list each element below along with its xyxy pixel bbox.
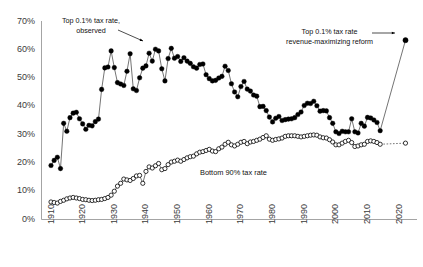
data-point-top01	[311, 99, 316, 104]
data-point-top01	[137, 75, 142, 80]
data-point-bottom90	[109, 193, 113, 197]
data-point-top01	[147, 51, 152, 56]
data-point-top01	[267, 115, 272, 120]
top-series-annotation: Top 0.1% tax rate, observed	[62, 16, 120, 35]
y-axis-tick-label: 50%	[3, 72, 35, 82]
data-point-top01	[327, 115, 332, 120]
data-point-top01	[356, 131, 361, 136]
data-point-top01	[248, 89, 253, 94]
data-point-bottom90	[378, 142, 382, 146]
bottom-series-annotation: Bottom 90% tax rate	[200, 168, 267, 177]
y-axis-tick-label: 60%	[3, 44, 35, 54]
data-point-top01	[362, 124, 367, 129]
data-point-top01	[375, 120, 380, 125]
data-point-bottom90	[157, 161, 161, 165]
data-point-top01	[330, 121, 335, 126]
data-point-top01	[65, 129, 70, 134]
data-point-top01	[378, 128, 383, 133]
data-point-top01	[134, 88, 139, 93]
y-axis-tick-label: 20%	[3, 157, 35, 167]
x-axis-tick-label: 1950	[172, 203, 182, 223]
data-point-top01	[270, 120, 275, 125]
data-point-top01	[58, 166, 63, 171]
data-point-top01	[232, 90, 237, 95]
data-point-top01	[226, 68, 231, 73]
data-point-bottom90	[403, 141, 407, 145]
data-point-top01	[121, 83, 126, 88]
data-point-top01	[90, 124, 95, 129]
data-point-top01	[169, 46, 174, 51]
data-point-top01	[55, 155, 60, 160]
data-point-bottom90	[119, 181, 123, 185]
annotation-arrow	[372, 32, 395, 35]
data-point-top01	[128, 51, 133, 56]
data-point-top01	[254, 94, 259, 99]
x-axis-tick-label: 2010	[362, 203, 372, 223]
data-point-top01	[144, 64, 149, 69]
data-point-top01	[68, 115, 73, 120]
data-point-top01	[175, 54, 180, 59]
data-point-bottom90	[144, 169, 148, 173]
data-point-top01	[349, 117, 354, 122]
data-point-bottom90	[138, 173, 142, 177]
x-axis-tick-label: 1940	[140, 203, 150, 223]
data-point-top01	[74, 110, 79, 115]
data-point-top01	[156, 49, 161, 54]
chart-figure: 0%10%20%30%40%50%60%70%19101920193019401…	[0, 0, 423, 267]
data-point-top01	[229, 81, 234, 86]
x-axis-tick-label: 1910	[46, 203, 56, 223]
data-point-top01	[150, 59, 155, 64]
data-point-top01	[99, 87, 104, 92]
data-point-top01	[201, 62, 206, 67]
data-point-bottom90	[264, 134, 268, 138]
x-axis-tick-label: 1930	[109, 203, 119, 223]
data-point-top01	[80, 122, 85, 127]
data-point-top01	[109, 49, 114, 54]
data-point-top01	[159, 66, 164, 71]
y-axis-tick-label: 10%	[3, 185, 35, 195]
data-point-top01	[277, 114, 282, 119]
data-point-top01	[315, 103, 320, 108]
data-point-top01	[163, 79, 168, 84]
y-axis-tick-label: 40%	[3, 100, 35, 110]
data-point-top01	[96, 117, 101, 122]
data-point-top01	[84, 127, 89, 132]
data-point-top01	[166, 56, 171, 61]
data-point-top01	[346, 130, 351, 135]
data-point-top01	[242, 79, 247, 84]
data-point-top01	[235, 94, 240, 99]
x-axis-tick-label: 1970	[235, 203, 245, 223]
y-axis-tick-label: 70%	[3, 16, 35, 26]
annotation-arrow	[118, 30, 143, 41]
data-point-top01	[112, 65, 117, 70]
data-point-top01	[77, 117, 82, 122]
data-point-top01	[299, 110, 304, 115]
data-point-reform	[403, 38, 408, 43]
reform-annotation: Top 0.1% tax rate revenue-maximizing ref…	[286, 27, 373, 46]
data-point-top01	[223, 64, 228, 69]
data-point-top01	[178, 59, 183, 64]
x-axis-tick-label: 1960	[204, 203, 214, 223]
data-point-top01	[239, 84, 244, 89]
data-point-bottom90	[112, 189, 116, 193]
data-point-top01	[49, 163, 54, 168]
data-point-top01	[106, 65, 111, 70]
data-point-top01	[194, 66, 199, 71]
data-point-bottom90	[163, 166, 167, 170]
data-point-top01	[125, 69, 130, 74]
x-axis-tick-label: 1980	[267, 203, 277, 223]
x-axis-tick-label: 2020	[394, 203, 404, 223]
data-point-top01	[61, 121, 66, 126]
data-point-bottom90	[141, 181, 145, 185]
data-point-top01	[220, 74, 225, 79]
y-axis-tick-label: 0%	[3, 214, 35, 224]
data-point-top01	[324, 109, 329, 114]
data-point-top01	[204, 72, 209, 77]
data-point-bottom90	[350, 140, 354, 144]
x-axis-tick-label: 1990	[299, 203, 309, 223]
x-axis-tick-label: 1920	[77, 203, 87, 223]
data-point-top01	[261, 104, 266, 109]
x-axis-tick-label: 2000	[330, 203, 340, 223]
y-axis-tick-label: 30%	[3, 129, 35, 139]
data-point-top01	[264, 108, 269, 113]
